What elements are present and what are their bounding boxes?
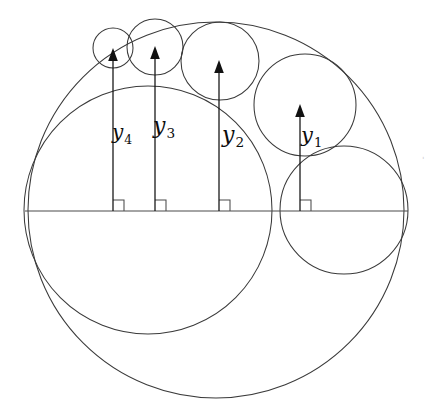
- label-y3: y3: [153, 115, 175, 141]
- label-y2-base: y: [222, 122, 234, 147]
- scan-speck-artifact: ˈ: [422, 156, 424, 166]
- geometry-figure: y4 y3 y2 y1 ˈ: [0, 0, 443, 419]
- chain-circle-2: [181, 22, 259, 100]
- label-y1: y1: [301, 125, 322, 149]
- outer-circle: [28, 22, 404, 398]
- height-arrow-1: [295, 104, 305, 211]
- right-angle-marker-1: [300, 200, 311, 211]
- label-y4-sub: 4: [123, 132, 132, 147]
- label-y2-sub: 2: [234, 134, 244, 150]
- label-y1-base: y: [301, 123, 313, 147]
- label-y4-base: y: [112, 120, 123, 144]
- right-angle-marker-4: [113, 200, 124, 211]
- label-y3-base: y: [153, 113, 165, 138]
- right-angle-marker-2: [219, 200, 230, 211]
- figure-canvas: [0, 0, 443, 419]
- right-angle-marker-3: [155, 200, 166, 211]
- label-y4: y4: [112, 122, 132, 146]
- label-y1-sub: 1: [313, 135, 322, 150]
- label-y3-sub: 3: [165, 125, 175, 141]
- label-y2: y2: [222, 124, 244, 150]
- base-circle: [280, 146, 408, 274]
